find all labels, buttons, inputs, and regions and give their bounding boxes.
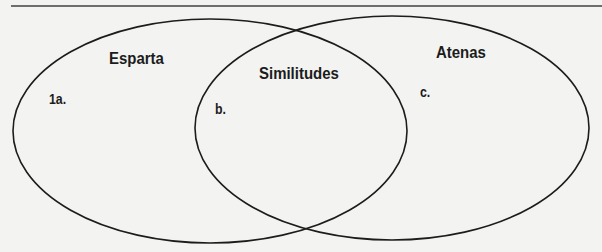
intersection-title-similitudes: Similitudes <box>259 64 339 84</box>
answer-slot-b: b. <box>215 101 226 117</box>
answer-slot-c: c. <box>420 84 430 100</box>
set-title-atenas: Atenas <box>436 43 486 63</box>
set-title-esparta: Esparta <box>109 49 164 69</box>
answer-slot-1a: 1a. <box>49 91 66 107</box>
circle-atenas <box>195 16 589 240</box>
circle-esparta <box>13 19 407 243</box>
venn-diagram <box>0 0 602 252</box>
